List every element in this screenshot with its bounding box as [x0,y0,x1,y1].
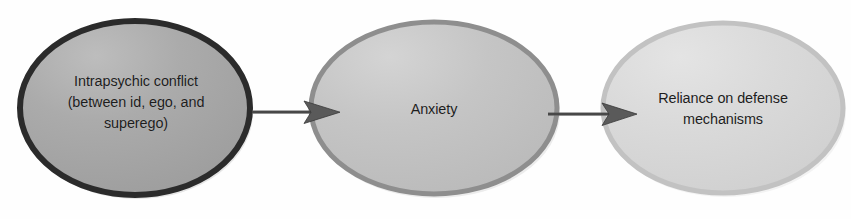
node-reliance-defense-mechanisms[interactable] [603,23,846,197]
node-3-ellipse [603,23,843,193]
flow-diagram-svg [0,0,851,219]
node-anxiety[interactable] [311,22,560,198]
arrow-1-shaft [252,111,314,114]
node-intrapsychic-conflict[interactable] [20,21,253,199]
arrow-2-shaft [548,113,612,116]
node-1-ellipse [20,21,250,195]
node-2-ellipse [311,22,557,194]
diagram-canvas: Intrapsychic conflict (between id, ego, … [0,0,851,219]
